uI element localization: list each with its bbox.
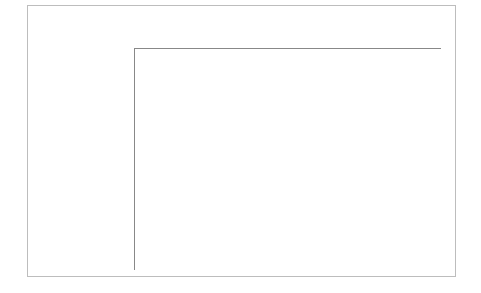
chart-frame (27, 5, 456, 277)
y-axis-line (134, 48, 135, 270)
x-axis-line (134, 48, 441, 49)
